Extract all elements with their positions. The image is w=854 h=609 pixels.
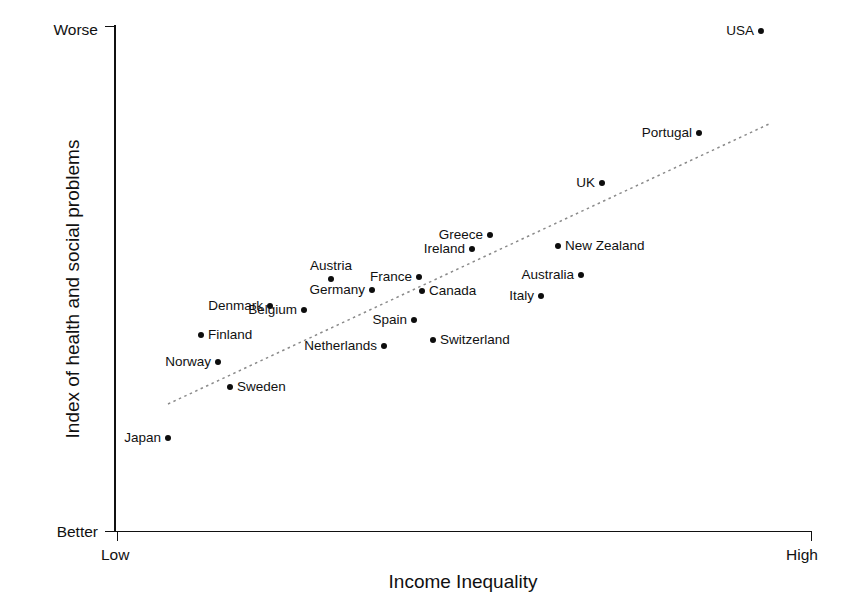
data-point[interactable] [430,337,436,343]
data-point[interactable] [538,293,544,299]
data-point[interactable] [198,332,204,338]
scatter-chart: Worse Better Low High Index of health an… [0,0,854,609]
data-point[interactable] [599,180,605,186]
data-point[interactable] [758,28,764,34]
data-point-label: UK [576,176,595,190]
data-point-label: Japan [124,431,161,445]
data-point[interactable] [555,243,561,249]
data-point[interactable] [469,246,475,252]
data-point-label: France [370,270,412,284]
data-point[interactable] [301,307,307,313]
data-point-label: Germany [309,283,365,297]
data-point[interactable] [227,384,233,390]
data-point-label: Italy [509,289,534,303]
data-point-label: Finland [208,328,252,342]
data-point-label: Portugal [642,126,692,140]
data-point-label: Sweden [237,380,286,394]
data-point[interactable] [381,343,387,349]
data-point[interactable] [411,317,417,323]
data-point-label: Greece [439,228,483,242]
data-point[interactable] [416,274,422,280]
data-point-label: Spain [372,313,407,327]
plot-area: JapanFinlandNorwaySwedenDenmarkBelgiumAu… [0,0,854,609]
data-point-label: Switzerland [440,333,510,347]
data-point-label: Australia [521,268,574,282]
data-point-label: Belgium [248,303,297,317]
data-point[interactable] [328,276,334,282]
data-point[interactable] [419,288,425,294]
data-point-label: Norway [165,355,211,369]
data-point-label: New Zealand [565,239,645,253]
trend-line [0,0,854,609]
data-point-label: Ireland [424,242,465,256]
data-point[interactable] [215,359,221,365]
data-point-label: Netherlands [304,339,377,353]
data-point[interactable] [165,435,171,441]
data-point[interactable] [369,287,375,293]
data-point-label: Austria [310,259,352,273]
data-point[interactable] [578,272,584,278]
data-point-label: USA [726,24,754,38]
data-point-label: Canada [429,284,476,298]
data-point[interactable] [487,232,493,238]
data-point[interactable] [696,130,702,136]
